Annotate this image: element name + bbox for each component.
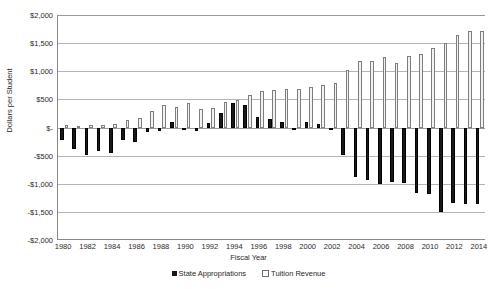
bar-tuition-revenue-1988 xyxy=(162,105,166,128)
legend-label: State Appropriations xyxy=(179,269,247,278)
bar-tuition-revenue-1989 xyxy=(175,107,179,128)
bar-state-appropriations-1980 xyxy=(60,128,64,140)
bar-state-appropriations-2010 xyxy=(427,128,431,195)
bar-state-appropriations-1998 xyxy=(280,122,284,128)
legend-item-tuition-revenue: Tuition Revenue xyxy=(262,269,325,278)
bar-state-appropriations-1988 xyxy=(158,128,162,131)
legend-item-state-appropriations: State Appropriations xyxy=(172,269,247,278)
bar-tuition-revenue-1998 xyxy=(285,89,289,128)
bar-state-appropriations-1993 xyxy=(219,113,223,127)
open-square-icon xyxy=(262,270,269,277)
bar-tuition-revenue-1990 xyxy=(187,103,191,127)
bar-state-appropriations-1985 xyxy=(121,128,125,141)
bar-state-appropriations-2001 xyxy=(317,124,321,128)
gridline xyxy=(58,184,485,185)
legend-label: Tuition Revenue xyxy=(271,269,325,278)
y-axis-tick-label: -$1,000 xyxy=(1,179,53,188)
bar-tuition-revenue-1992 xyxy=(211,108,215,127)
bar-tuition-revenue-1983 xyxy=(101,125,105,128)
bar-state-appropriations-1987 xyxy=(146,128,150,133)
gridline xyxy=(58,15,485,16)
x-axis-tick-label: 1980 xyxy=(55,242,72,251)
bar-tuition-revenue-2006 xyxy=(383,57,387,127)
x-axis-tick-label: 1994 xyxy=(226,242,243,251)
bar-tuition-revenue-2005 xyxy=(370,61,374,128)
bar-tuition-revenue-2008 xyxy=(407,56,411,127)
x-axis-tick-label: 2014 xyxy=(471,242,488,251)
y-axis-tick-label: $1,500 xyxy=(1,39,53,48)
bar-state-appropriations-1992 xyxy=(207,123,211,127)
bar-state-appropriations-1991 xyxy=(195,128,199,131)
bar-tuition-revenue-2014 xyxy=(480,31,484,127)
chart-title xyxy=(0,0,497,2)
bar-tuition-revenue-2012 xyxy=(456,35,460,128)
bar-state-appropriations-1990 xyxy=(182,128,186,130)
bar-tuition-revenue-2002 xyxy=(334,83,338,127)
bar-tuition-revenue-2009 xyxy=(419,54,423,127)
bar-tuition-revenue-2013 xyxy=(468,31,472,127)
y-axis-tick-label: $2,000 xyxy=(1,11,53,20)
bar-tuition-revenue-2010 xyxy=(431,48,435,128)
x-axis-tick-label: 2010 xyxy=(422,242,439,251)
bar-tuition-revenue-1995 xyxy=(248,95,252,128)
bar-state-appropriations-2003 xyxy=(341,128,345,156)
y-axis-tick-label: -$500 xyxy=(1,151,53,160)
x-axis-tick-label: 1988 xyxy=(153,242,170,251)
bar-tuition-revenue-1981 xyxy=(77,126,81,128)
bar-tuition-revenue-1985 xyxy=(126,120,130,127)
bar-tuition-revenue-1987 xyxy=(150,111,154,128)
bar-state-appropriations-2014 xyxy=(476,128,480,204)
bar-state-appropriations-2012 xyxy=(451,128,455,204)
bar-state-appropriations-1999 xyxy=(292,128,296,130)
bar-tuition-revenue-2001 xyxy=(321,85,325,127)
x-axis-tick-label: 2004 xyxy=(348,242,365,251)
bar-state-appropriations-2008 xyxy=(402,128,406,183)
bar-state-appropriations-1986 xyxy=(133,128,137,142)
bar-tuition-revenue-1984 xyxy=(113,124,117,127)
bar-tuition-revenue-1986 xyxy=(138,118,142,128)
bar-tuition-revenue-2000 xyxy=(309,87,313,127)
filled-square-icon xyxy=(172,271,177,276)
x-axis-title: Fiscal Year xyxy=(0,253,497,262)
bar-tuition-revenue-1991 xyxy=(199,109,203,127)
bar-tuition-revenue-2004 xyxy=(358,61,362,127)
bar-state-appropriations-2011 xyxy=(439,128,443,212)
bar-state-appropriations-2006 xyxy=(378,128,382,185)
bar-tuition-revenue-1994 xyxy=(236,100,240,128)
x-axis-tick-label: 2000 xyxy=(299,242,316,251)
bar-state-appropriations-2000 xyxy=(305,122,309,128)
bar-state-appropriations-2013 xyxy=(464,128,468,204)
bar-state-appropriations-1989 xyxy=(170,122,174,127)
bar-state-appropriations-1982 xyxy=(85,128,89,155)
bar-state-appropriations-1997 xyxy=(268,119,272,128)
bar-state-appropriations-1983 xyxy=(97,128,101,151)
plot-area xyxy=(57,15,485,240)
bar-tuition-revenue-2007 xyxy=(395,63,399,127)
bar-state-appropriations-1995 xyxy=(243,105,247,128)
bar-state-appropriations-2004 xyxy=(354,128,358,178)
bar-tuition-revenue-1999 xyxy=(297,89,301,127)
bar-state-appropriations-1994 xyxy=(231,103,235,127)
gridline xyxy=(58,212,485,213)
x-axis-tick-label: 1984 xyxy=(104,242,121,251)
y-axis-tick-label: -$2,000 xyxy=(1,236,53,245)
x-axis-tick-label: 1992 xyxy=(202,242,219,251)
y-axis-tick-label: $500 xyxy=(1,95,53,104)
x-axis-tick-label: 1982 xyxy=(79,242,96,251)
bar-tuition-revenue-2011 xyxy=(444,43,448,127)
bar-tuition-revenue-1996 xyxy=(260,91,264,128)
bar-state-appropriations-2009 xyxy=(415,128,419,193)
bar-tuition-revenue-2003 xyxy=(346,70,350,127)
gridline xyxy=(58,156,485,157)
x-axis-tick-label: 1996 xyxy=(250,242,267,251)
bar-state-appropriations-1984 xyxy=(109,128,113,154)
y-axis-tick-labels: $2,000$1,500$1,000$500$--$500-$1,000-$1,… xyxy=(0,15,53,240)
x-axis-tick-label: 1990 xyxy=(177,242,194,251)
bar-tuition-revenue-1997 xyxy=(272,90,276,127)
x-axis-tick-label: 2006 xyxy=(373,242,390,251)
bar-state-appropriations-1996 xyxy=(256,117,260,128)
gridline xyxy=(58,43,485,44)
bar-tuition-revenue-1982 xyxy=(89,125,93,128)
x-axis-tick-label: 2012 xyxy=(446,242,463,251)
bar-state-appropriations-2007 xyxy=(390,128,394,183)
